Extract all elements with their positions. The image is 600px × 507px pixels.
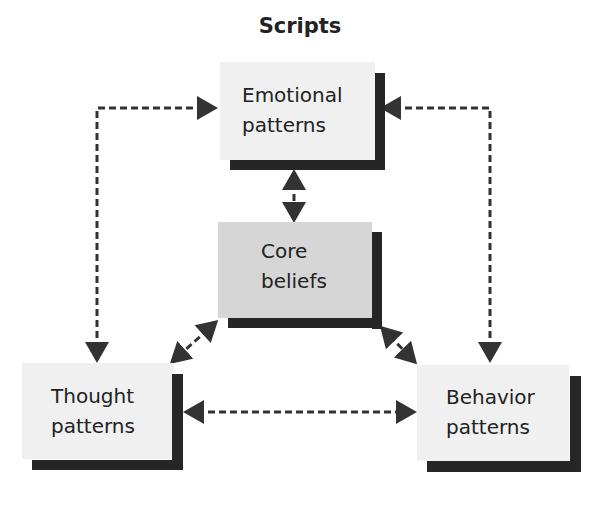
node-behavior-patterns: Behavior patterns bbox=[417, 365, 582, 472]
arrow-core-thought bbox=[172, 322, 216, 362]
node-label: Emotional bbox=[242, 80, 342, 110]
node-core-beliefs: Core beliefs bbox=[218, 222, 383, 329]
node-label: Behavior bbox=[446, 382, 535, 412]
arrow-core-behavior bbox=[382, 328, 415, 362]
node-label: patterns bbox=[242, 110, 342, 140]
node-thought-patterns: Thought patterns bbox=[22, 363, 184, 470]
node-label: Thought bbox=[51, 381, 135, 411]
node-emotional-patterns: Emotional patterns bbox=[220, 62, 385, 170]
node-label: Core bbox=[261, 236, 327, 266]
arrow-thought-emotional bbox=[97, 108, 215, 360]
node-label: patterns bbox=[51, 411, 135, 441]
node-label: beliefs bbox=[261, 266, 327, 296]
arrow-behavior-emotional bbox=[383, 108, 490, 360]
node-label: patterns bbox=[446, 412, 535, 442]
